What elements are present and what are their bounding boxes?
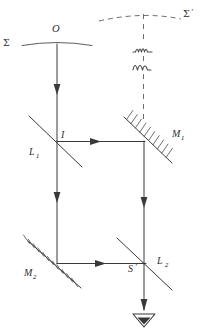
optics-diagram-canvas: Σ O Σ ′ L 1 I — [0, 0, 208, 334]
beamsplitter-2-sublabel: 2 — [165, 261, 169, 268]
arrowhead-to-mirror1 — [90, 138, 101, 145]
mirror-1-label: M — [171, 128, 181, 139]
sigma-label: Σ — [3, 37, 10, 48]
mirror-2-sublabel: 2 — [33, 273, 37, 280]
sigma-prime-mark: ′ — [191, 8, 193, 17]
sigma-prime-label: Σ — [183, 8, 190, 19]
arrowhead-source-down — [54, 84, 61, 95]
beamsplitter-1-label: L — [28, 146, 35, 157]
mirror-1-hatching — [127, 111, 173, 158]
arrowhead-to-mirror2 — [54, 192, 61, 203]
mirror-1-sublabel: 1 — [181, 134, 184, 141]
beamsplitter-2-label: L — [156, 255, 163, 266]
image-point-label: I — [60, 129, 65, 140]
arrowhead-to-splitter2 — [95, 260, 106, 267]
arrowhead-mirror1-down — [141, 197, 148, 208]
optics-diagram: Σ O Σ ′ L 1 I — [0, 0, 208, 334]
mirror-2-hatching — [24, 235, 78, 287]
sigma-prime-wavefront-curve — [99, 15, 181, 21]
wave-squiggle-upper — [133, 49, 152, 52]
mirror-2-label: M — [23, 267, 33, 278]
wave-squiggle-lower — [133, 66, 151, 71]
screen-point-label: S — [128, 263, 133, 274]
beamsplitter-1-sublabel: 1 — [36, 152, 39, 159]
screen-point-mark: ′ — [135, 263, 137, 272]
arrowhead-output-down — [141, 299, 148, 311]
source-point-label: O — [52, 23, 60, 34]
eye-detector-icon — [133, 314, 155, 327]
